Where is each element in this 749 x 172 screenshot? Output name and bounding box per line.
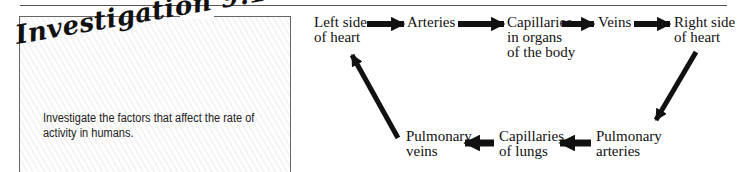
arrow-pulmonary-veins-to-left-heart bbox=[352, 55, 398, 138]
flow-arrows bbox=[0, 0, 749, 172]
arrow-right-heart-to-pulmonary-arteries bbox=[656, 52, 696, 120]
